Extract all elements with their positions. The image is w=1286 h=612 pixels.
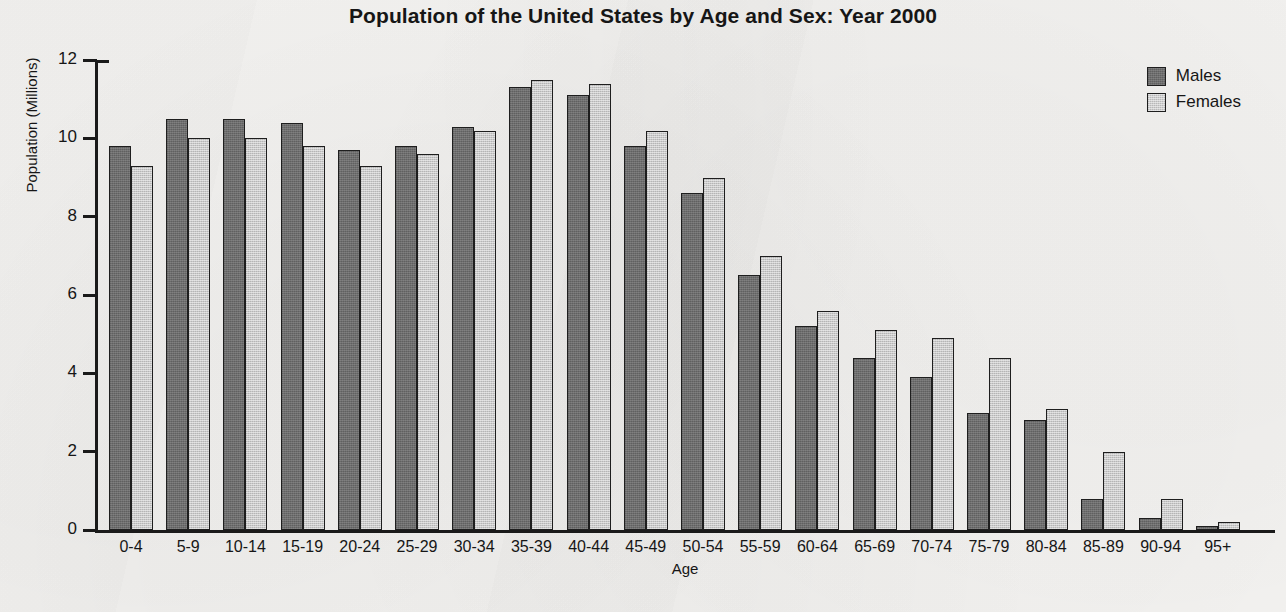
bar-females-0-4 (131, 166, 153, 530)
bar-males-35-39 (509, 87, 531, 530)
x-axis-tick-label: 65-69 (845, 538, 905, 556)
bar-males-80-84 (1024, 420, 1046, 530)
bar-females-90-94 (1161, 499, 1183, 530)
bar-males-95+ (1196, 526, 1218, 530)
bar-group (624, 60, 668, 530)
bar-group (681, 60, 725, 530)
y-axis-tick-label: 0 (37, 519, 77, 539)
y-axis-tick-label: 8 (37, 206, 77, 226)
x-axis-tick-label: 95+ (1188, 538, 1248, 556)
x-axis-tick-label: 70-74 (902, 538, 962, 556)
bar-males-10-14 (223, 119, 245, 530)
bar-males-45-49 (624, 146, 646, 530)
x-axis-tick-label: 50-54 (673, 538, 733, 556)
bar-group (338, 60, 382, 530)
bar-females-55-59 (760, 256, 782, 530)
bar-males-70-74 (910, 377, 932, 530)
x-axis-tick-label: 60-64 (787, 538, 847, 556)
bar-females-60-64 (817, 311, 839, 530)
bar-group (166, 60, 210, 530)
bar-females-40-44 (589, 84, 611, 531)
y-axis-top-cap (95, 60, 109, 63)
bar-group (281, 60, 325, 530)
bar-females-80-84 (1046, 409, 1068, 530)
bar-males-60-64 (795, 326, 817, 530)
bar-group (395, 60, 439, 530)
bar-females-5-9 (188, 138, 210, 530)
y-axis-tick (83, 529, 97, 532)
x-axis-tick-label: 25-29 (387, 538, 447, 556)
legend-item-males: Males (1147, 66, 1241, 86)
x-axis-tick-label: 15-19 (273, 538, 333, 556)
bar-males-65-69 (853, 358, 875, 530)
x-axis-tick-label: 85-89 (1073, 538, 1133, 556)
legend-swatch-males (1147, 67, 1166, 86)
bar-females-45-49 (646, 131, 668, 531)
bar-males-25-29 (395, 146, 417, 530)
y-axis-tick (83, 215, 97, 218)
bar-females-85-89 (1103, 452, 1125, 530)
x-axis-tick-label: 55-59 (730, 538, 790, 556)
x-axis-line (95, 530, 1275, 533)
x-axis-title: Age (95, 560, 1275, 577)
bar-females-35-39 (531, 80, 553, 530)
x-axis-tick-label: 10-14 (215, 538, 275, 556)
y-axis-tick (83, 372, 97, 375)
chart-title: Population of the United States by Age a… (0, 4, 1286, 28)
bar-females-95+ (1218, 522, 1240, 530)
legend-item-females: Females (1147, 92, 1241, 112)
y-axis-title: Population (Millions) (23, 15, 40, 235)
y-axis-tick-label: 12 (37, 49, 77, 69)
bar-group (509, 60, 553, 530)
bar-group (223, 60, 267, 530)
bar-group (109, 60, 153, 530)
bar-females-15-19 (303, 146, 325, 530)
y-axis-tick-label: 6 (37, 284, 77, 304)
x-axis-tick-label: 30-34 (444, 538, 504, 556)
bar-group (1024, 60, 1068, 530)
x-axis-tick-label: 45-49 (616, 538, 676, 556)
y-axis-tick-label: 10 (37, 127, 77, 147)
bar-females-20-24 (360, 166, 382, 530)
bar-group (1139, 60, 1183, 530)
bar-group (1081, 60, 1125, 530)
legend-label: Males (1176, 66, 1221, 86)
x-axis-tick-label: 0-4 (101, 538, 161, 556)
legend-swatch-females (1147, 93, 1166, 112)
bar-males-20-24 (338, 150, 360, 530)
y-axis-tick (83, 450, 97, 453)
bar-group (567, 60, 611, 530)
y-axis-tick (83, 294, 97, 297)
bar-males-5-9 (166, 119, 188, 530)
bar-males-0-4 (109, 146, 131, 530)
bar-males-75-79 (967, 413, 989, 531)
bar-males-30-34 (452, 127, 474, 530)
x-axis-tick-label: 20-24 (330, 538, 390, 556)
x-axis-tick-label: 40-44 (559, 538, 619, 556)
chart-legend: MalesFemales (1147, 66, 1241, 118)
bar-males-15-19 (281, 123, 303, 530)
x-axis-tick-label: 90-94 (1131, 538, 1191, 556)
plot-area: 121086420 Population (Millions) 0-45-910… (95, 60, 1275, 530)
bar-females-65-69 (875, 330, 897, 530)
bar-females-50-54 (703, 178, 725, 531)
bar-group (795, 60, 839, 530)
bar-males-40-44 (567, 95, 589, 530)
bar-males-55-59 (738, 275, 760, 530)
bar-males-50-54 (681, 193, 703, 530)
x-axis-tick-label: 35-39 (501, 538, 561, 556)
bar-females-10-14 (245, 138, 267, 530)
bar-females-25-29 (417, 154, 439, 530)
bar-females-75-79 (989, 358, 1011, 530)
bar-group (738, 60, 782, 530)
bar-males-85-89 (1081, 499, 1103, 530)
bar-group (853, 60, 897, 530)
y-axis-tick-label: 2 (37, 441, 77, 461)
bar-males-90-94 (1139, 518, 1161, 530)
bar-group (452, 60, 496, 530)
bar-group (910, 60, 954, 530)
x-axis-tick-label: 80-84 (1016, 538, 1076, 556)
bar-females-70-74 (932, 338, 954, 530)
x-axis-tick-label: 5-9 (158, 538, 218, 556)
x-axis-tick-label: 75-79 (959, 538, 1019, 556)
